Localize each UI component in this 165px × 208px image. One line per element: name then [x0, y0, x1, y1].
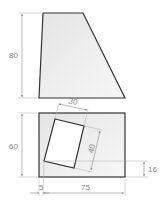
- technical-drawing: 80 60 30 40 16 5 75: [0, 0, 165, 208]
- dimension-label-30: 30: [68, 96, 79, 107]
- dimension-label-80: 80: [9, 51, 18, 60]
- top-view: 60 30 40 16 5 75: [9, 96, 157, 196]
- dimension-label-60: 60: [9, 142, 18, 151]
- front-view: 80: [9, 13, 125, 98]
- dimension-label-5: 5: [39, 183, 44, 192]
- dimension-label-75: 75: [81, 183, 90, 192]
- dimension-label-16: 16: [148, 165, 157, 174]
- trapezoid-shape: [39, 13, 125, 98]
